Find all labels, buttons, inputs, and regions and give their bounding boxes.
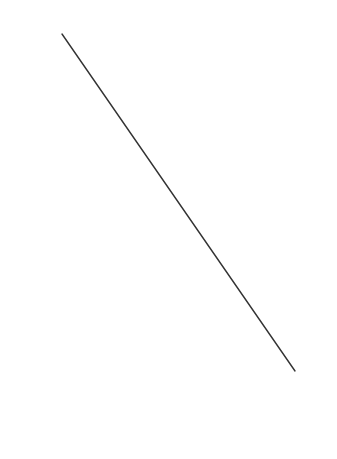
drawing-canvas	[0, 0, 337, 459]
diagonal-line	[62, 34, 295, 371]
